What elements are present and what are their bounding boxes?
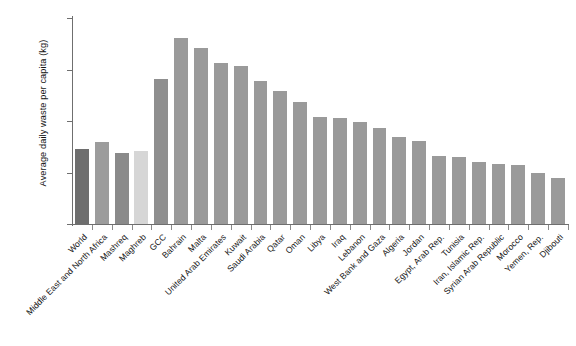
bar (174, 38, 188, 224)
x-tick-mark (132, 225, 133, 230)
bar (472, 162, 486, 224)
x-tick-mark (151, 225, 152, 230)
chart-figure: Average daily waste per capita (kg) 00.5… (0, 0, 576, 346)
bar (313, 117, 327, 224)
x-tick-mark (112, 225, 113, 230)
x-tick-mark (548, 225, 549, 230)
bar (134, 151, 148, 224)
x-tick-mark (92, 225, 93, 230)
x-tick-mark (350, 225, 351, 230)
x-tick-mark (270, 225, 271, 230)
y-tick-mark (67, 224, 72, 225)
bar (492, 164, 506, 224)
x-tick-mark (528, 225, 529, 230)
bar (373, 128, 387, 224)
x-tick-mark (409, 225, 410, 230)
bar (273, 91, 287, 224)
bar (333, 118, 347, 224)
bar (531, 173, 545, 225)
x-tick-mark (330, 225, 331, 230)
bar (432, 156, 446, 224)
bar (452, 157, 466, 224)
plot-area (72, 18, 568, 224)
bar (392, 137, 406, 224)
x-tick-mark (370, 225, 371, 230)
bar (75, 149, 89, 224)
x-axis-line (72, 224, 569, 225)
x-tick-mark (568, 225, 569, 230)
x-tick-mark (310, 225, 311, 230)
x-tick-mark (251, 225, 252, 230)
bar (214, 63, 228, 224)
bar (353, 122, 367, 224)
x-tick-mark (231, 225, 232, 230)
x-tick-mark (469, 225, 470, 230)
x-tick-mark (171, 225, 172, 230)
x-tick-mark (489, 225, 490, 230)
bar (154, 79, 168, 224)
x-tick-mark (191, 225, 192, 230)
x-tick-mark (449, 225, 450, 230)
x-tick-mark (290, 225, 291, 230)
x-tick-mark (211, 225, 212, 230)
bar (511, 165, 525, 224)
bar (95, 142, 109, 224)
bar (254, 81, 268, 224)
bar (234, 66, 248, 224)
bar (293, 102, 307, 224)
bar (412, 141, 426, 224)
bar (194, 48, 208, 224)
bar (115, 153, 129, 224)
y-axis-title: Average daily waste per capita (kg) (38, 18, 48, 208)
x-tick-mark (508, 225, 509, 230)
x-tick-mark (429, 225, 430, 230)
bar (551, 178, 565, 224)
x-tick-mark (389, 225, 390, 230)
